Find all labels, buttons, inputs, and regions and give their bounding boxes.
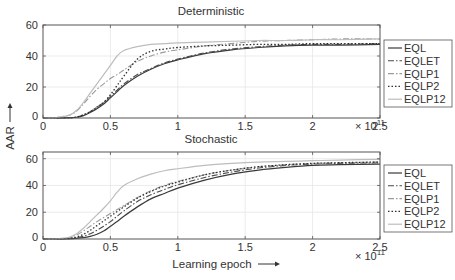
x-tick-label: 1 bbox=[175, 241, 181, 253]
x-tick-label: 1.5 bbox=[238, 120, 253, 132]
stochastic-legend: EQLEQLETEQLP1EQLP2EQLP12 bbox=[384, 165, 452, 232]
y-tick-label: 40 bbox=[26, 50, 38, 62]
series-line-eqlp12 bbox=[43, 39, 380, 118]
chart-canvas: Deterministic 00.511.522.50204060 × 1011… bbox=[0, 0, 455, 280]
series-line-eqlp2 bbox=[43, 44, 380, 118]
x-tick-label: 0.5 bbox=[103, 241, 118, 253]
y-tick-label: 20 bbox=[26, 81, 38, 93]
series-line-eqlet bbox=[43, 44, 380, 118]
x-tick-label: 2 bbox=[310, 120, 316, 132]
y-tick-label: 20 bbox=[26, 206, 38, 218]
y-axis-label-text: AAR bbox=[4, 126, 16, 150]
x-tick-label: 1.5 bbox=[238, 241, 253, 253]
stochastic-series bbox=[43, 159, 380, 239]
legend-label-eqlp12: EQLP12 bbox=[404, 218, 446, 230]
x-axis-label: Learning epoch bbox=[172, 258, 280, 270]
x-axis-arrow-icon bbox=[258, 262, 280, 267]
legend-label-eqlp1: EQLP1 bbox=[404, 68, 439, 80]
figure: Deterministic 00.511.522.50204060 × 1011… bbox=[0, 0, 455, 280]
legend-label-eqlp2: EQLP2 bbox=[404, 205, 439, 217]
deterministic-legend: EQLEQLETEQLP1EQLP2EQLP12 bbox=[384, 40, 452, 107]
legend-label-eqlet: EQLET bbox=[404, 55, 440, 67]
y-tick-label: 60 bbox=[26, 153, 38, 165]
legend-label-eqlet: EQLET bbox=[404, 180, 440, 192]
x-tick-label: 2 bbox=[310, 241, 316, 253]
stochastic-title: Stochastic bbox=[184, 133, 237, 145]
y-tick-label: 60 bbox=[26, 19, 38, 31]
x-tick-label: 0.5 bbox=[103, 120, 118, 132]
y-axis-arrow-icon bbox=[8, 103, 13, 122]
y-tick-label: 0 bbox=[32, 231, 38, 243]
y-axis-label: AAR bbox=[4, 103, 16, 150]
legend-label-eqlp1: EQLP1 bbox=[404, 193, 439, 205]
x-tick-label: 0 bbox=[40, 241, 46, 253]
x-tick-label: 1 bbox=[175, 120, 181, 132]
y-tick-label: 40 bbox=[26, 179, 38, 191]
stochastic-panel: Stochastic 00.511.522.50204060 × 1011 EQ… bbox=[26, 133, 452, 262]
stochastic-x-multiplier: × 1011 bbox=[355, 248, 386, 262]
series-line-eqlp2 bbox=[43, 162, 380, 239]
series-line-eql bbox=[43, 44, 380, 118]
deterministic-ticks: 00.511.522.50204060 bbox=[26, 19, 388, 132]
series-line-eqlp1 bbox=[43, 39, 380, 118]
deterministic-panel: Deterministic 00.511.522.50204060 × 1011… bbox=[26, 5, 452, 132]
x-tick-label: 0 bbox=[40, 120, 46, 132]
y-tick-label: 0 bbox=[32, 110, 38, 122]
series-line-eqlp12 bbox=[43, 159, 380, 239]
legend-label-eql: EQL bbox=[404, 42, 426, 54]
legend-label-eqlp2: EQLP2 bbox=[404, 80, 439, 92]
legend-label-eql: EQL bbox=[404, 167, 426, 179]
x-axis-label-text: Learning epoch bbox=[172, 258, 251, 270]
deterministic-series bbox=[43, 39, 380, 118]
legend-label-eqlp12: EQLP12 bbox=[404, 93, 446, 105]
deterministic-title: Deterministic bbox=[178, 5, 245, 17]
